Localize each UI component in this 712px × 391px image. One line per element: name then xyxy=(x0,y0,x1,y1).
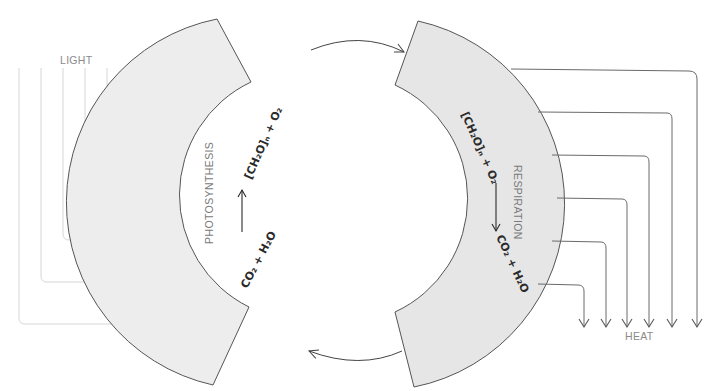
photosynthesis-arc xyxy=(66,19,251,385)
photosynthesis-reactants: CO₂ + H₂O xyxy=(238,229,279,290)
cycle-arrow-top xyxy=(311,40,404,52)
respiration-arc xyxy=(395,21,565,387)
photosynthesis-products: [CH₂O]ₙ + O₂ xyxy=(242,105,285,181)
respiration-label: RESPIRATION xyxy=(512,165,524,240)
heat-arrow-6 xyxy=(538,284,584,327)
heat-arrow-4 xyxy=(557,198,627,327)
heat-label: HEAT xyxy=(625,330,654,342)
heat-arrow-5 xyxy=(552,241,606,327)
carbon-cycle-diagram: LIGHT PHOTOSYNTHESIS CO₂ + H₂O [CH₂O]ₙ +… xyxy=(0,0,712,391)
cycle-arrow-bottom xyxy=(309,351,402,361)
light-label: LIGHT xyxy=(60,54,93,66)
photosynthesis-label: PHOTOSYNTHESIS xyxy=(203,142,215,244)
